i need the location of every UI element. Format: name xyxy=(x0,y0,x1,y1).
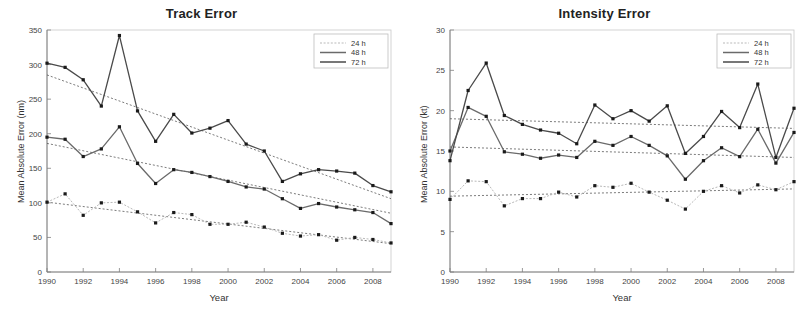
svg-text:1996: 1996 xyxy=(550,277,568,286)
svg-text:72 h: 72 h xyxy=(754,58,769,67)
svg-text:200: 200 xyxy=(29,130,43,139)
plot-area-right: 0510152025301990199219941996199820002002… xyxy=(403,0,806,312)
svg-text:24 h: 24 h xyxy=(754,39,769,48)
svg-text:2006: 2006 xyxy=(731,277,749,286)
svg-text:25: 25 xyxy=(436,66,445,75)
svg-text:24 h: 24 h xyxy=(351,39,366,48)
svg-text:1998: 1998 xyxy=(586,277,604,286)
plot-area-left: 0501001502002503003501990199219941996199… xyxy=(0,0,403,312)
svg-text:1998: 1998 xyxy=(183,277,201,286)
svg-text:10: 10 xyxy=(436,187,445,196)
svg-text:1994: 1994 xyxy=(514,277,532,286)
svg-text:2004: 2004 xyxy=(695,277,713,286)
svg-text:1990: 1990 xyxy=(441,277,459,286)
figure-root: Track Error 0501001502002503003501990199… xyxy=(0,0,807,312)
svg-text:15: 15 xyxy=(436,147,445,156)
svg-text:1996: 1996 xyxy=(147,277,165,286)
svg-text:1992: 1992 xyxy=(477,277,495,286)
y-axis-label-right: Mean Absolute Error (kt) xyxy=(419,105,429,203)
x-axis-label-right: Year xyxy=(450,292,794,303)
svg-text:0: 0 xyxy=(441,268,446,277)
svg-text:20: 20 xyxy=(436,107,445,116)
svg-text:2000: 2000 xyxy=(622,277,640,286)
svg-text:1992: 1992 xyxy=(74,277,92,286)
svg-text:250: 250 xyxy=(29,95,43,104)
x-axis-label-left: Year xyxy=(47,292,391,303)
svg-text:48 h: 48 h xyxy=(351,48,366,57)
svg-text:2006: 2006 xyxy=(328,277,346,286)
svg-text:2002: 2002 xyxy=(658,277,676,286)
svg-text:150: 150 xyxy=(29,164,43,173)
svg-text:2002: 2002 xyxy=(255,277,273,286)
svg-text:2000: 2000 xyxy=(219,277,237,286)
svg-text:48 h: 48 h xyxy=(754,48,769,57)
svg-text:2004: 2004 xyxy=(292,277,310,286)
svg-text:2008: 2008 xyxy=(767,277,785,286)
svg-text:2008: 2008 xyxy=(364,277,382,286)
y-axis-label-left: Mean Absolute Error (nm) xyxy=(16,100,26,203)
svg-text:300: 300 xyxy=(29,61,43,70)
svg-text:50: 50 xyxy=(33,233,42,242)
svg-text:0: 0 xyxy=(38,268,43,277)
panel-intensity-error: Intensity Error 051015202530199019921994… xyxy=(403,0,806,312)
svg-text:5: 5 xyxy=(441,228,446,237)
svg-text:350: 350 xyxy=(29,26,43,35)
svg-text:1994: 1994 xyxy=(111,277,129,286)
svg-text:30: 30 xyxy=(436,26,445,35)
panel-track-error: Track Error 0501001502002503003501990199… xyxy=(0,0,403,312)
svg-text:1990: 1990 xyxy=(38,277,56,286)
svg-text:100: 100 xyxy=(29,199,43,208)
svg-text:72 h: 72 h xyxy=(351,58,366,67)
